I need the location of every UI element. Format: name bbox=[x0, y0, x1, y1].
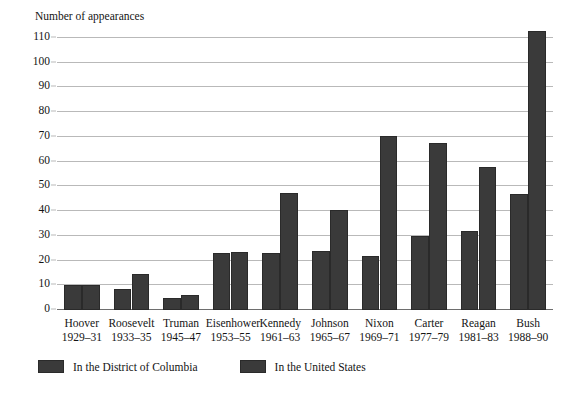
x-axis-label-name: Hoover bbox=[57, 316, 107, 330]
bar-dc bbox=[362, 256, 380, 310]
bar-dc bbox=[411, 236, 429, 310]
y-tick-mark-10 bbox=[51, 284, 56, 285]
y-tick-label-40: 40 bbox=[39, 204, 51, 216]
bar-us bbox=[479, 167, 497, 310]
y-tick-mark-50 bbox=[51, 185, 56, 186]
bar-dc bbox=[312, 251, 330, 310]
x-axis-label-name: Roosevelt bbox=[107, 316, 157, 330]
x-axis-label-name: Truman bbox=[156, 316, 206, 330]
bar-group bbox=[213, 38, 249, 310]
legend-swatch-icon bbox=[240, 360, 266, 373]
bar-us bbox=[528, 31, 546, 310]
x-axis-label-name: Bush bbox=[503, 316, 553, 330]
x-axis-label: Truman1945–47 bbox=[156, 316, 206, 344]
y-tick-label-90: 90 bbox=[39, 81, 51, 93]
bar-group bbox=[461, 38, 497, 310]
chart-plot-area: 0102030405060708090100110 bbox=[57, 38, 553, 310]
bar-us bbox=[380, 136, 398, 310]
bar-dc bbox=[114, 289, 132, 310]
bar-us bbox=[82, 285, 100, 310]
y-tick-label-0: 0 bbox=[44, 303, 50, 315]
x-axis-label: Kennedy1961–63 bbox=[255, 316, 305, 344]
x-axis-label-years: 1977–79 bbox=[404, 330, 454, 344]
top-cutoff-artifact bbox=[52, 0, 262, 4]
y-tick-label-20: 20 bbox=[39, 254, 51, 266]
x-axis-label-years: 1988–90 bbox=[503, 330, 553, 344]
y-tick-mark-100 bbox=[51, 61, 56, 62]
y-tick-label-100: 100 bbox=[33, 56, 50, 68]
x-axis-label-name: Eisenhower bbox=[206, 316, 256, 330]
bar-dc bbox=[510, 194, 528, 310]
x-axis-label: Nixon1969–71 bbox=[355, 316, 405, 344]
bar-group bbox=[510, 38, 546, 310]
legend-label: In the District of Columbia bbox=[73, 361, 198, 373]
y-axis-title: Number of appearances bbox=[35, 10, 144, 23]
bar-us bbox=[429, 143, 447, 310]
y-tick-mark-80 bbox=[51, 111, 56, 112]
bar-group bbox=[163, 38, 199, 310]
bar-dc bbox=[262, 253, 280, 310]
x-axis-label: Bush1988–90 bbox=[503, 316, 553, 344]
bar-us bbox=[330, 210, 348, 310]
x-axis-label-years: 1981–83 bbox=[454, 330, 504, 344]
x-axis-labels: Hoover1929–31Roosevelt1933–35Truman1945–… bbox=[57, 316, 553, 350]
bar-series-container bbox=[57, 38, 553, 310]
y-tick-label-50: 50 bbox=[39, 180, 51, 192]
x-axis-label-name: Nixon bbox=[355, 316, 405, 330]
legend-item-us: In the United States bbox=[240, 360, 366, 373]
x-axis-label-name: Reagan bbox=[454, 316, 504, 330]
bar-group bbox=[411, 38, 447, 310]
y-tick-mark-40 bbox=[51, 210, 56, 211]
bar-group bbox=[262, 38, 298, 310]
x-axis-label: Johnson1965–67 bbox=[305, 316, 355, 344]
x-axis-label-name: Carter bbox=[404, 316, 454, 330]
y-tick-mark-90 bbox=[51, 86, 56, 87]
bar-us bbox=[280, 193, 298, 310]
x-axis-label: Carter1977–79 bbox=[404, 316, 454, 344]
y-tick-mark-20 bbox=[51, 259, 56, 260]
chart-legend: In the District of ColumbiaIn the United… bbox=[38, 360, 366, 373]
y-tick-label-60: 60 bbox=[39, 155, 51, 167]
bar-dc bbox=[461, 231, 479, 310]
x-axis-label-years: 1965–67 bbox=[305, 330, 355, 344]
x-axis-label-years: 1933–35 bbox=[107, 330, 157, 344]
x-axis-label: Eisenhower1953–55 bbox=[206, 316, 256, 344]
legend-item-dc: In the District of Columbia bbox=[38, 360, 198, 373]
x-axis-label-years: 1945–47 bbox=[156, 330, 206, 344]
x-axis-label: Roosevelt1933–35 bbox=[107, 316, 157, 344]
legend-swatch-icon bbox=[38, 360, 64, 373]
x-axis-label-years: 1953–55 bbox=[206, 330, 256, 344]
bar-us bbox=[231, 252, 249, 310]
bar-group bbox=[312, 38, 348, 310]
y-tick-label-70: 70 bbox=[39, 130, 51, 142]
x-axis-label-name: Kennedy bbox=[255, 316, 305, 330]
y-tick-mark-70 bbox=[51, 135, 56, 136]
bar-dc bbox=[64, 285, 82, 310]
x-axis-label-years: 1969–71 bbox=[355, 330, 405, 344]
y-tick-label-110: 110 bbox=[33, 31, 50, 43]
bar-group bbox=[114, 38, 150, 310]
y-tick-mark-30 bbox=[51, 234, 56, 235]
x-axis-label: Hoover1929–31 bbox=[57, 316, 107, 344]
y-tick-label-80: 80 bbox=[39, 105, 51, 117]
x-axis-label-name: Johnson bbox=[305, 316, 355, 330]
legend-label: In the United States bbox=[275, 361, 366, 373]
bar-group bbox=[362, 38, 398, 310]
y-tick-mark-110 bbox=[51, 37, 56, 38]
bar-dc bbox=[213, 253, 231, 310]
bar-dc bbox=[163, 298, 181, 310]
bar-us bbox=[181, 295, 199, 310]
y-tick-label-10: 10 bbox=[39, 279, 51, 291]
y-tick-mark-60 bbox=[51, 160, 56, 161]
x-axis-label-years: 1961–63 bbox=[255, 330, 305, 344]
bar-group bbox=[64, 38, 100, 310]
y-tick-mark-0 bbox=[51, 309, 56, 310]
bar-us bbox=[132, 274, 150, 310]
x-axis-label-years: 1929–31 bbox=[57, 330, 107, 344]
y-tick-label-30: 30 bbox=[39, 229, 51, 241]
x-axis-label: Reagan1981–83 bbox=[454, 316, 504, 344]
